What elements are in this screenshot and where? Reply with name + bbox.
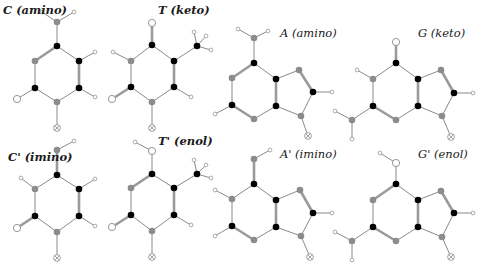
hydrogen-atom — [471, 211, 475, 215]
double-bond — [373, 227, 396, 241]
hydrogen-atom — [213, 112, 217, 116]
carbon-atom — [393, 181, 400, 188]
molecule-label-a-amino: A (amino) — [280, 26, 337, 40]
nitrogen-atom — [438, 67, 445, 74]
single-bond — [396, 63, 418, 79]
hydrogen-atom — [19, 176, 23, 180]
hydrogen-atom — [72, 10, 76, 14]
molecule-label-t-enol: T' (enol) — [158, 134, 213, 148]
carbon-atom — [171, 58, 178, 65]
carbon-atom — [76, 186, 83, 193]
single-bond — [442, 93, 454, 116]
carbon-atom — [415, 76, 422, 83]
hydrogen-atom — [378, 151, 382, 155]
tautomer-diagram — [0, 0, 480, 273]
nitrogen-atom — [298, 233, 305, 240]
molecule-a-imino — [213, 148, 334, 260]
nitrogen-atom — [393, 117, 400, 124]
oxygen-atom — [392, 159, 399, 166]
double-bond — [299, 70, 313, 92]
nitrogen-atom — [32, 58, 39, 65]
double-bond — [373, 106, 396, 120]
nitrogen-atom — [296, 67, 303, 74]
carbon-atom — [76, 213, 83, 220]
nitrogen-atom — [251, 35, 258, 42]
nitrogen-atom — [439, 113, 446, 120]
hydrogen-atom — [355, 68, 359, 72]
single-bond — [131, 87, 152, 102]
hydrogen-atom — [266, 29, 270, 33]
nitrogen-atom — [370, 76, 377, 83]
hydrogen-atom — [189, 223, 193, 227]
carbon-atom — [128, 212, 135, 219]
nitrogen-atom — [32, 186, 39, 193]
single-bond — [254, 106, 276, 119]
carbon-atom — [171, 212, 178, 219]
carbon-atom — [194, 171, 201, 178]
single-bond — [254, 184, 276, 200]
single-bond — [57, 88, 79, 102]
carbon-atom — [229, 223, 236, 230]
molecule-label-t-keto: T (keto) — [158, 3, 210, 17]
single-bond — [276, 227, 301, 236]
single-bond — [152, 215, 174, 231]
carbon-atom — [194, 43, 201, 50]
oxygen-atom — [392, 38, 399, 45]
double-bond — [232, 226, 254, 240]
carbon-atom — [415, 197, 422, 204]
carbon-atom — [273, 224, 280, 231]
carbon-atom — [415, 224, 422, 231]
hydrogen-atom — [213, 234, 217, 238]
carbon-atom — [54, 43, 61, 50]
carbon-atom — [393, 60, 400, 67]
carbon-atom — [54, 172, 61, 179]
double-bond — [373, 184, 396, 200]
double-bond — [441, 70, 454, 93]
nitrogen-atom — [54, 229, 61, 236]
hydrogen-atom — [189, 95, 193, 99]
carbon-atom — [273, 76, 280, 83]
single-bond — [396, 106, 418, 120]
hydrogen-atom — [213, 188, 217, 192]
single-bond — [301, 213, 313, 236]
molecule-label-c-imino: C' (imino) — [8, 150, 73, 164]
hydrogen-atom — [330, 211, 334, 215]
hydrogen-atom — [93, 95, 97, 99]
carbon-atom — [310, 210, 317, 217]
molecule-g-keto — [333, 38, 475, 141]
molecule-label-c-amino: C (amino) — [3, 3, 67, 17]
nitrogen-atom — [229, 196, 236, 203]
molecule-t-keto — [108, 19, 213, 131]
oxygen-atom — [148, 19, 155, 26]
hydrogen-atom — [209, 48, 213, 52]
hydrogen-atom — [93, 50, 97, 54]
single-bond — [442, 213, 454, 237]
single-bond — [57, 175, 79, 189]
hydrogen-atom — [93, 177, 97, 181]
single-bond — [232, 184, 254, 199]
molecule-label-g-keto: G (keto) — [418, 26, 465, 40]
carbon-atom — [370, 103, 377, 110]
nitrogen-atom — [370, 197, 377, 204]
nitrogen-atom — [297, 187, 304, 194]
hydrogen-atom — [333, 230, 337, 234]
single-bond — [174, 46, 197, 61]
single-bond — [418, 70, 441, 79]
nitrogen-atom — [251, 237, 258, 244]
nitrogen-atom — [54, 99, 61, 106]
single-bond — [276, 106, 301, 116]
nitrogen-atom — [393, 238, 400, 245]
carbon-atom — [251, 60, 258, 67]
oxygen-atom — [13, 224, 20, 231]
hydrogen-atom — [72, 139, 76, 143]
double-bond — [232, 105, 254, 119]
carbon-atom — [370, 224, 377, 231]
nitrogen-atom — [251, 156, 258, 163]
carbon-atom — [128, 84, 135, 91]
nitrogen-atom — [439, 234, 446, 241]
single-bond — [396, 227, 418, 241]
hydrogen-atom — [333, 109, 337, 113]
single-bond — [352, 106, 373, 120]
carbon-atom — [415, 103, 422, 110]
hydrogen-atom — [330, 90, 334, 94]
